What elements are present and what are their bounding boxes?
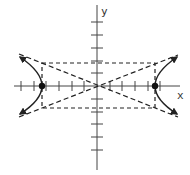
vertex-right (152, 83, 158, 89)
y-axis-label: y (101, 5, 108, 18)
vertex-left (39, 83, 45, 89)
hyperbola-diagram: y x (0, 0, 190, 175)
x-axis-label: x (177, 89, 184, 102)
